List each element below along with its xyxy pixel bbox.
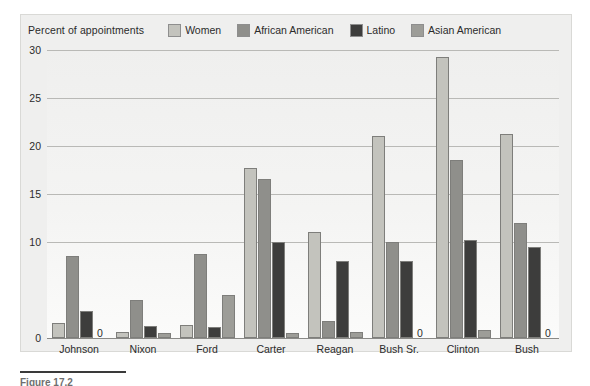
legend-label: Asian American	[428, 24, 501, 36]
bar	[52, 323, 65, 338]
bar-group: Carter	[239, 50, 303, 338]
bar	[130, 300, 143, 338]
bar-stack	[303, 50, 367, 338]
bar-stack	[175, 50, 239, 338]
chart-header: Percent of appointments WomenAfrican Ame…	[28, 22, 568, 38]
bar-group: 0Johnson	[47, 50, 111, 338]
bar	[272, 242, 285, 338]
bar-stack: 0	[47, 50, 111, 338]
legend-item: Women	[168, 24, 221, 37]
bar-stack	[111, 50, 175, 338]
bar-stack: 0	[367, 50, 431, 338]
bar	[222, 295, 235, 338]
bar	[258, 179, 271, 338]
bar-group: 0Bush Sr.	[367, 50, 431, 338]
bar	[158, 333, 171, 338]
bar: 0	[414, 337, 427, 338]
x-axis-tick-label: Nixon	[130, 343, 157, 355]
zero-value-label: 0	[417, 328, 423, 339]
y-axis-caption: Percent of appointments	[28, 24, 144, 36]
bar: 0	[542, 337, 555, 338]
legend-label: Latino	[367, 24, 396, 36]
bar	[208, 327, 221, 338]
bar	[478, 330, 491, 338]
bar-group: 0Bush	[495, 50, 559, 338]
y-axis-tick-label: 10	[29, 236, 41, 248]
bar	[80, 311, 93, 338]
y-axis-tick-label: 0	[35, 332, 41, 344]
x-axis-tick-label: Clinton	[447, 343, 480, 355]
zero-value-label: 0	[545, 328, 551, 339]
x-axis-tick-label: Bush Sr.	[379, 343, 419, 355]
bar-groups: 0JohnsonNixonFordCarterReagan0Bush Sr.Cl…	[47, 50, 559, 338]
bar-group: Clinton	[431, 50, 495, 338]
bar-stack	[239, 50, 303, 338]
chart-legend: WomenAfrican AmericanLatinoAsian America…	[168, 24, 517, 37]
bar	[194, 254, 207, 338]
bar	[308, 232, 321, 338]
bar-group: Nixon	[111, 50, 175, 338]
bar	[372, 136, 385, 338]
bar	[322, 321, 335, 338]
bar	[350, 332, 363, 338]
bar	[450, 160, 463, 338]
y-axis-tick-label: 25	[29, 92, 41, 104]
bar-stack	[431, 50, 495, 338]
figure-container: Percent of appointments WomenAfrican Ame…	[0, 0, 590, 386]
bar	[464, 240, 477, 338]
bar-stack: 0	[495, 50, 559, 338]
legend-swatch-icon	[350, 24, 363, 37]
bar	[66, 256, 79, 338]
bar	[436, 57, 449, 338]
legend-item: African American	[237, 24, 333, 37]
bar	[244, 168, 257, 338]
zero-value-label: 0	[97, 328, 103, 339]
x-axis-tick-label: Carter	[256, 343, 285, 355]
bar	[400, 261, 413, 338]
y-axis-tick-label: 30	[29, 44, 41, 56]
bar	[336, 261, 349, 338]
bar	[116, 332, 129, 338]
bar	[514, 223, 527, 338]
legend-item: Asian American	[411, 24, 501, 37]
y-axis-tick-label: 15	[29, 188, 41, 200]
bar	[180, 325, 193, 338]
y-axis-tick-label: 20	[29, 140, 41, 152]
bar	[528, 247, 541, 338]
caption-rule	[20, 371, 126, 373]
legend-label: African American	[254, 24, 333, 36]
bar: 0	[94, 337, 107, 338]
bar	[144, 326, 157, 338]
bar-group: Reagan	[303, 50, 367, 338]
bar	[500, 134, 513, 338]
legend-label: Women	[185, 24, 221, 36]
legend-swatch-icon	[411, 24, 424, 37]
bar	[386, 242, 399, 338]
x-axis-tick-label: Johnson	[59, 343, 99, 355]
legend-swatch-icon	[168, 24, 181, 37]
x-axis-tick-label: Bush	[515, 343, 539, 355]
bar	[286, 333, 299, 338]
x-axis-tick-label: Reagan	[317, 343, 354, 355]
bar-group: Ford	[175, 50, 239, 338]
plot-area: 30252015100 0JohnsonNixonFordCarterReaga…	[47, 50, 559, 338]
legend-item: Latino	[350, 24, 396, 37]
figure-caption: Figure 17.2	[20, 377, 73, 386]
x-axis-tick-label: Ford	[196, 343, 218, 355]
legend-swatch-icon	[237, 24, 250, 37]
axis-baseline: 0	[47, 338, 559, 339]
